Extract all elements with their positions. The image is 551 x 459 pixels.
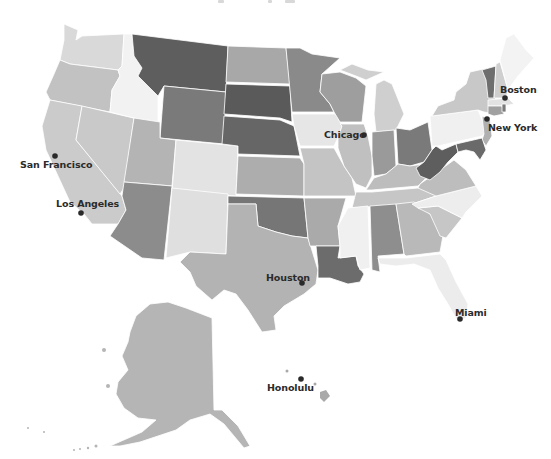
city-dot-honolulu[interactable] [298, 376, 304, 382]
state-north-dakota[interactable] [226, 46, 290, 84]
state-new-mexico[interactable] [166, 188, 228, 258]
city-label-miami: Miami [455, 307, 487, 318]
city-label-los-angeles: Los Angeles [56, 198, 119, 209]
state-wyoming[interactable] [160, 86, 226, 144]
state-alaska[interactable] [110, 302, 250, 448]
city-label-honolulu: Honolulu [267, 382, 314, 393]
city-label-new-york: New York [488, 122, 537, 133]
city-label-chicago: Chicago [324, 129, 366, 140]
city-dot-san-francisco[interactable] [52, 153, 58, 159]
city-label-san-francisco: San Francisco [20, 159, 92, 170]
city-label-houston: Houston [266, 272, 310, 283]
state-colorado[interactable] [172, 140, 238, 196]
city-label-boston: Boston [500, 84, 537, 95]
state-maryland[interactable] [456, 138, 486, 160]
state-rhode-island[interactable] [502, 104, 506, 112]
state-washington[interactable] [60, 24, 124, 70]
state-kansas[interactable] [236, 156, 304, 196]
aleutian-islands [27, 348, 110, 451]
city-dot-los-angeles[interactable] [78, 210, 84, 216]
city-dot-new-york[interactable] [484, 116, 490, 122]
state-south-dakota[interactable] [224, 84, 292, 122]
city-dot-boston[interactable] [502, 95, 508, 101]
